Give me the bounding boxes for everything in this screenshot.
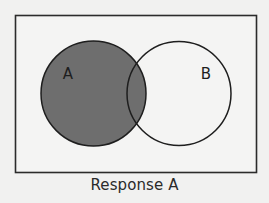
venn-diagram: A B (0, 0, 269, 203)
set-a-label: A (63, 65, 74, 83)
set-b-label: B (201, 65, 211, 83)
diagram-caption: Response A (0, 176, 269, 194)
